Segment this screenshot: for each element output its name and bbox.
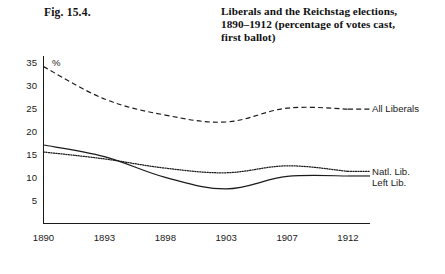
x-axis-tick-labels: 189018931898190319071912: [33, 232, 359, 243]
x-axis-tick-1890: 1890: [33, 232, 54, 243]
axis-lines: [44, 56, 371, 224]
chart-axes: [44, 56, 371, 224]
y-axis-tick-labels: 5101520253035: [26, 57, 37, 206]
y-axis-tick-5: 5: [32, 195, 37, 206]
line-chart-svg: 5101520253035 189018931898190319071912 %…: [0, 0, 445, 274]
series-line-natl-lib: [44, 152, 349, 173]
x-axis-tick-1907: 1907: [276, 232, 297, 243]
x-axis-tick-1898: 1898: [155, 232, 176, 243]
series-label-natl-lib: Natl. Lib.: [372, 166, 410, 177]
chart-series-labels: All LiberalsNatl. Lib.Left Lib.: [372, 103, 419, 188]
chart-series-group: [44, 67, 371, 189]
series-line-all-liberals: [44, 67, 349, 123]
series-label-left-lib: Left Lib.: [372, 177, 406, 188]
series-line-left-lib: [44, 145, 349, 189]
y-axis-tick-15: 15: [26, 149, 37, 160]
y-axis-tick-25: 25: [26, 103, 37, 114]
y-axis-unit-label: %: [52, 57, 61, 68]
x-axis-tick-1912: 1912: [337, 232, 358, 243]
y-axis-tick-20: 20: [26, 126, 37, 137]
y-axis-tick-35: 35: [26, 57, 37, 68]
series-label-all-liberals: All Liberals: [372, 103, 419, 114]
x-axis-tick-1903: 1903: [216, 232, 237, 243]
y-axis-tick-30: 30: [26, 80, 37, 91]
x-axis-tick-1893: 1893: [94, 232, 115, 243]
y-axis-tick-10: 10: [26, 172, 37, 183]
chart-plot-area: 5101520253035 189018931898190319071912 %…: [0, 0, 445, 274]
